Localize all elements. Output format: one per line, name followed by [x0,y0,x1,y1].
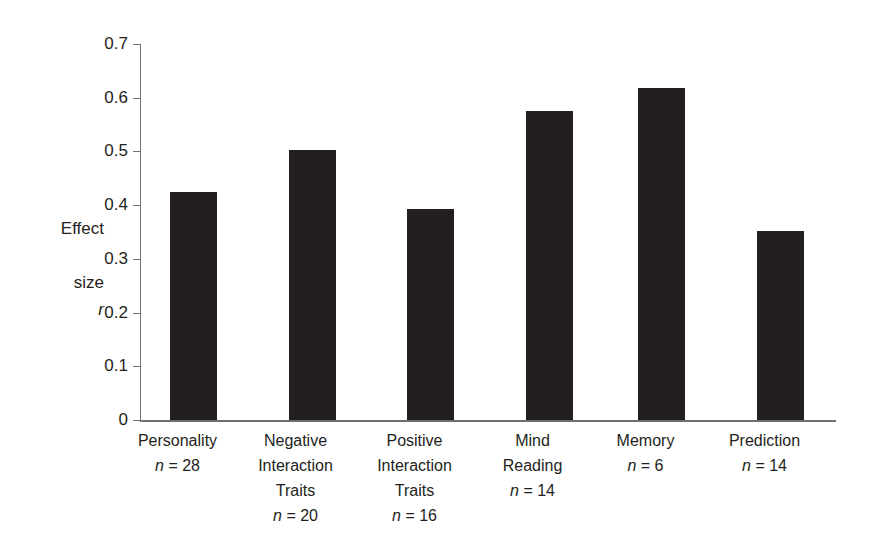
x-category-label-negative-interaction-traits: Negative Interaction Traits n = 20 [228,428,363,528]
y-tick-label-0: 0 [40,411,128,428]
category-sample-size: n = 6 [578,453,713,478]
bar-prediction [757,231,804,420]
y-tick-mark-0 [133,420,140,421]
y-tick-mark-0.5 [133,151,140,152]
y-tick-mark-0.6 [133,98,140,99]
y-tick-label-0.5: 0.5 [40,142,128,159]
y-tick-mark-0.4 [133,205,140,206]
category-sample-size: n = 16 [347,503,482,528]
x-category-label-prediction: Prediction n = 14 [697,428,832,478]
category-name: Memory [578,428,713,453]
y-axis-line [140,44,141,421]
category-sample-size: n = 20 [228,503,363,528]
category-name: Positive Interaction Traits [347,428,482,503]
y-tick-label-0.7: 0.7 [40,35,128,52]
plot-area: 0.7 0.6 0.5 0.4 0.3 0.2 0.1 0 [140,44,836,421]
bar-memory [638,88,685,420]
bar-personality [170,192,217,420]
y-tick-label-0.6: 0.6 [40,89,128,106]
y-tick-label-0.3: 0.3 [40,250,128,267]
y-tick-label-0.4: 0.4 [40,196,128,213]
bar-mind-reading [526,111,573,420]
bar-negative-interaction-traits [289,150,336,420]
y-tick-mark-0.7 [133,44,140,45]
category-sample-size: n = 14 [697,453,832,478]
category-name: Prediction [697,428,832,453]
bar-chart-figure: Effect size r 0.7 0.6 0.5 0.4 0.3 0.2 0.… [0,0,870,553]
category-name: Personality [110,428,245,453]
y-tick-mark-0.1 [133,366,140,367]
category-sample-size: n = 28 [110,453,245,478]
y-axis-title-line-1: Effect [61,219,104,238]
y-tick-mark-0.3 [133,259,140,260]
category-name: Negative Interaction Traits [228,428,363,503]
y-axis-title-line-2: size [74,273,104,292]
y-tick-label-0.1: 0.1 [40,357,128,374]
x-axis-line [140,420,836,422]
x-category-label-positive-interaction-traits: Positive Interaction Traits n = 16 [347,428,482,528]
x-category-label-personality: Personality n = 28 [110,428,245,478]
y-tick-label-0.2: 0.2 [40,304,128,321]
bar-positive-interaction-traits [407,209,454,420]
y-tick-mark-0.2 [133,313,140,314]
x-category-label-memory: Memory n = 6 [578,428,713,478]
category-sample-size: n = 14 [465,478,600,503]
